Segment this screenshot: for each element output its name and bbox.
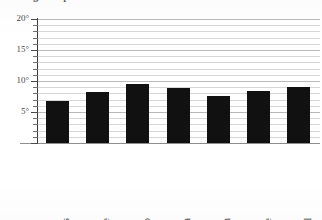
x-axis-tick-label: Swansea (182, 218, 192, 220)
x-axis-tick-label: St Andrews (61, 218, 71, 220)
gridline-major (38, 19, 320, 20)
x-axis-labels: St AndrewsLarneSligoSwanseaHarwichEastbo… (38, 146, 320, 220)
y-tick-minor (33, 93, 38, 94)
y-tick-minor (33, 44, 38, 45)
y-axis-tick-label: 20° (1, 13, 29, 23)
bar (126, 84, 149, 143)
bar (46, 101, 69, 143)
gridline-minor (38, 44, 320, 45)
y-tick-major (31, 81, 38, 82)
y-axis-labels: 5°10°15°20° (0, 0, 29, 220)
x-axis-line (20, 143, 320, 144)
gridline-minor (38, 31, 320, 32)
y-tick-major (31, 112, 38, 113)
bar (86, 92, 109, 143)
x-axis-tick-label: Eastbourne (263, 218, 273, 220)
x-axis-tick-label: Harwich (222, 218, 232, 220)
y-tick-minor (33, 38, 38, 39)
y-tick-minor (33, 69, 38, 70)
bar (167, 88, 190, 143)
y-axis-tick-label: 15° (1, 44, 29, 54)
gridline-minor (38, 62, 320, 63)
gridline-major (38, 50, 320, 51)
y-tick-minor (33, 25, 38, 26)
x-axis-tick-label: Sligo (142, 218, 152, 220)
y-tick-minor (33, 137, 38, 138)
y-axis-tick-label: 10° (1, 75, 29, 85)
y-tick-minor (33, 87, 38, 88)
gridline-major (38, 81, 320, 82)
x-axis-tick-label: St Austell (303, 218, 313, 220)
bar-chart: Average temperature in Celsius 5°10°15°2… (0, 0, 322, 220)
y-tick-major (31, 143, 38, 144)
y-tick-major (31, 50, 38, 51)
bar (247, 91, 270, 143)
y-axis-tick-label: 5° (1, 106, 29, 116)
y-tick-minor (33, 56, 38, 57)
y-tick-major (31, 19, 38, 20)
y-tick-minor (33, 131, 38, 132)
gridline-minor (38, 38, 320, 39)
y-tick-minor (33, 124, 38, 125)
gridline-minor (38, 75, 320, 76)
gridline-minor (38, 25, 320, 26)
y-tick-minor (33, 31, 38, 32)
gridline-minor (38, 56, 320, 57)
y-tick-minor (33, 106, 38, 107)
y-tick-minor (33, 118, 38, 119)
y-tick-minor (33, 100, 38, 101)
y-tick-minor (33, 62, 38, 63)
plot-area (38, 19, 320, 143)
bar (207, 96, 230, 143)
x-axis-tick-label: Larne (101, 218, 111, 220)
y-tick-minor (33, 75, 38, 76)
bar (287, 87, 310, 143)
gridline-minor (38, 69, 320, 70)
